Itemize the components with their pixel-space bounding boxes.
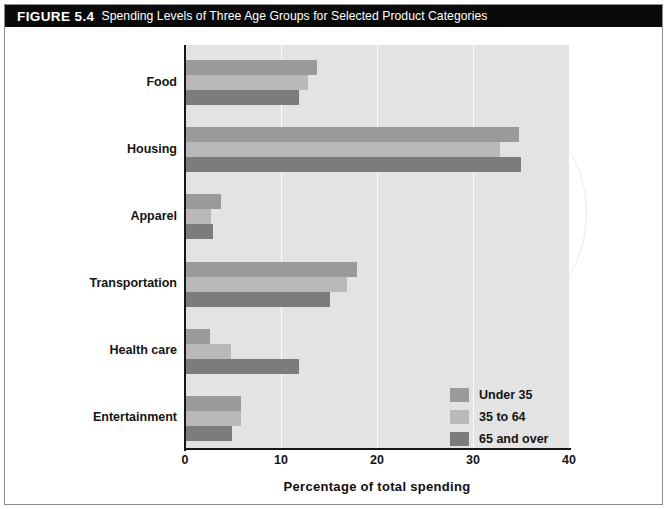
x-tick-label: 10 — [274, 453, 288, 467]
legend-label: 35 to 64 — [479, 410, 526, 424]
bar — [185, 426, 232, 441]
legend-item: 35 to 64 — [450, 406, 548, 428]
chart-area: PEARSON FoodHousingApparelTransportation… — [5, 27, 662, 504]
legend-label: Under 35 — [479, 388, 533, 402]
x-tick-label: 40 — [562, 453, 576, 467]
x-tick-label: 0 — [182, 453, 189, 467]
bar — [185, 209, 211, 224]
x-axis-title: Percentage of total spending — [185, 479, 569, 494]
bar — [185, 411, 241, 426]
x-tick-label: 30 — [466, 453, 480, 467]
bar — [185, 277, 347, 292]
bar — [185, 329, 210, 344]
bar — [185, 60, 317, 75]
bar — [185, 292, 330, 307]
bar — [185, 344, 231, 359]
figure-title: Spending Levels of Three Age Groups for … — [102, 9, 488, 23]
category-label: Health care — [7, 343, 177, 357]
bar — [185, 90, 299, 105]
category-label: Transportation — [7, 276, 177, 290]
bar — [185, 224, 213, 239]
legend-item: Under 35 — [450, 384, 548, 406]
bar — [185, 262, 357, 277]
y-axis-line — [184, 45, 186, 451]
chart-legend: Under 3535 to 6465 and over — [450, 384, 548, 450]
figure-number: FIGURE 5.4 — [17, 9, 95, 24]
bar — [185, 157, 521, 172]
bar — [185, 142, 500, 157]
bar — [185, 396, 241, 411]
category-label: Food — [7, 75, 177, 89]
bar — [185, 194, 221, 209]
legend-swatch-icon — [450, 388, 469, 402]
bar — [185, 75, 308, 90]
figure-title-bar: FIGURE 5.4 Spending Levels of Three Age … — [5, 5, 662, 27]
x-tick-label: 20 — [370, 453, 384, 467]
legend-swatch-icon — [450, 410, 469, 424]
category-label: Entertainment — [7, 410, 177, 424]
gridline — [281, 45, 282, 448]
legend-label: 65 and over — [479, 432, 548, 446]
gridline — [377, 45, 378, 448]
category-axis-labels: FoodHousingApparelTransportationHealth c… — [5, 45, 177, 448]
figure-container: FIGURE 5.4 Spending Levels of Three Age … — [0, 0, 667, 509]
legend-item: 65 and over — [450, 428, 548, 450]
category-label: Apparel — [7, 209, 177, 223]
bar — [185, 127, 519, 142]
category-label: Housing — [7, 142, 177, 156]
bar — [185, 359, 299, 374]
legend-swatch-icon — [450, 432, 469, 446]
